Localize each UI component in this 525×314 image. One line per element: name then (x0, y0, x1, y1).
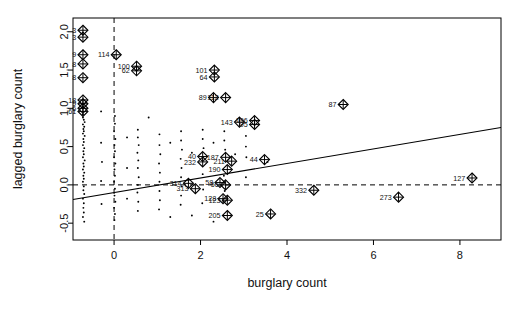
point-label: 89 (199, 93, 207, 102)
data-point-small (223, 130, 225, 132)
labeled-data-point[interactable]: 8 (72, 73, 88, 83)
labeled-data-point[interactable]: 127 (453, 173, 477, 183)
x-axis-tick-label: 0 (111, 249, 117, 261)
data-point-small (83, 172, 85, 174)
point-label: 143 (221, 118, 233, 127)
data-point-small (83, 221, 85, 223)
labeled-data-point[interactable]: 44 (250, 155, 270, 165)
data-point-small (83, 211, 85, 213)
data-point-small (223, 175, 225, 177)
data-point-small (202, 129, 204, 131)
data-point-small (159, 190, 161, 192)
point-label: 313 (177, 184, 189, 193)
data-point-small (113, 181, 115, 183)
data-point-small (100, 110, 102, 112)
point-label: 87 (328, 100, 336, 109)
x-axis-tick-label: 4 (284, 249, 290, 261)
point-label: 62 (122, 66, 130, 75)
data-point-small (203, 147, 205, 149)
point-label: 190 (209, 165, 221, 174)
data-point-small (158, 208, 160, 210)
data-point-small (180, 195, 182, 197)
data-point-small (137, 184, 139, 186)
data-point-small (148, 117, 150, 119)
y-axis-tick-label: 2.0 (58, 24, 70, 39)
data-point-small (213, 221, 215, 223)
labeled-data-point[interactable]: 3 (72, 32, 88, 42)
data-point-small (82, 169, 84, 171)
data-point-small (137, 210, 139, 212)
data-point-small (245, 176, 247, 178)
data-point-small (138, 176, 140, 178)
data-point-small (181, 149, 183, 151)
y-axis-tick-label: -0.5 (58, 214, 70, 233)
data-point-small (181, 167, 183, 169)
labeled-data-point[interactable]: 313 (177, 184, 201, 194)
data-point-small (82, 189, 84, 191)
scatter-plot-figure: 3391148100621016488911287189661143196954… (0, 0, 525, 314)
point-label: 127 (453, 174, 465, 183)
data-point-small (180, 176, 182, 178)
data-point-small (82, 150, 84, 152)
plot-canvas: 3391148100621016488911287189661143196954… (0, 0, 525, 314)
point-label: 25 (256, 210, 264, 219)
data-point-small (191, 215, 193, 217)
labeled-data-point[interactable]: 232 (184, 157, 208, 167)
data-point-small (83, 178, 85, 180)
data-point-small (126, 136, 128, 138)
data-point-small (113, 207, 115, 209)
data-point-small (82, 133, 84, 135)
data-point-small (223, 140, 225, 142)
plot-frame (73, 18, 501, 240)
data-point-small (114, 138, 116, 140)
point-label: 114 (98, 50, 109, 59)
x-axis-tick-label: 6 (370, 249, 376, 261)
data-point-small (114, 175, 116, 177)
data-point-small (180, 158, 182, 160)
data-point-small (224, 149, 226, 151)
data-point-small (82, 181, 84, 183)
labeled-data-point[interactable]: 205 (209, 211, 233, 221)
data-point-small (83, 119, 85, 121)
labeled-data-point[interactable]: 64 (200, 72, 220, 82)
labeled-data-point[interactable]: 62 (122, 66, 142, 76)
data-point-small (114, 195, 116, 197)
data-point-small (137, 167, 139, 169)
data-point-small (84, 135, 86, 137)
data-point-small (180, 130, 182, 132)
data-point-small (114, 123, 116, 125)
data-point-small (202, 189, 204, 191)
point-label: 95 (240, 120, 248, 129)
data-point-small (201, 202, 203, 204)
data-point-small (137, 129, 139, 131)
labeled-data-point[interactable]: 9 (72, 50, 88, 60)
labeled-data-point[interactable]: 56 (211, 180, 231, 190)
data-point-small (245, 146, 247, 148)
data-point-small (202, 138, 204, 140)
data-point-small (126, 198, 128, 200)
labeled-data-point[interactable]: 332 (295, 185, 319, 195)
data-point-small (114, 115, 116, 117)
data-point-small (180, 204, 182, 206)
y-axis-title: lagged burglary count (11, 68, 25, 189)
data-point-small (169, 142, 171, 144)
labeled-data-point[interactable]: 190 (209, 165, 233, 175)
point-label: 232 (184, 158, 196, 167)
labeled-data-point[interactable]: 273 (380, 192, 404, 202)
data-point-small (180, 140, 182, 142)
data-point-small (82, 207, 84, 209)
data-point-small (245, 135, 247, 137)
data-point-small (83, 130, 85, 132)
data-point-small (83, 193, 85, 195)
data-point-small (83, 147, 85, 149)
labeled-data-point[interactable]: 25 (256, 209, 276, 219)
point-label: 44 (250, 155, 258, 164)
data-point-small (234, 153, 236, 155)
data-point-small (114, 219, 116, 221)
labeled-data-point[interactable]: 114 (98, 50, 121, 60)
data-point-small (101, 203, 103, 205)
labeled-data-point[interactable]: 123 (209, 195, 233, 205)
labeled-data-point[interactable]: 87 (328, 100, 348, 110)
data-point-small (82, 162, 84, 164)
labeled-data-point[interactable]: 8 (72, 59, 88, 69)
